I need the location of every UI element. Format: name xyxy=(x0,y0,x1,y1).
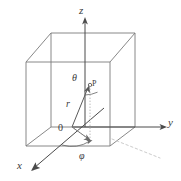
figure-canvas xyxy=(0,0,181,181)
phi-angle-label: φ xyxy=(79,151,85,161)
cube-edge-bottom-left xyxy=(26,127,51,146)
point-p-label: P xyxy=(92,80,96,88)
y-axis xyxy=(72,124,167,130)
theta-arc-path xyxy=(85,92,98,95)
radius-vector xyxy=(72,85,90,127)
z-axis xyxy=(82,17,88,127)
x-axis-label: x xyxy=(17,160,22,171)
theta-angle-arc xyxy=(85,92,98,95)
x-axis-line xyxy=(34,108,104,168)
projection-dotted-lines xyxy=(72,86,90,140)
cube-edge-top-right xyxy=(110,33,135,62)
ground-projection-ray xyxy=(72,127,91,141)
radius-label: r xyxy=(66,99,70,109)
guide-dashed-line xyxy=(112,139,160,158)
cube-edge-top-left xyxy=(26,33,51,62)
cube-depth-edges xyxy=(26,33,135,146)
x-axis xyxy=(31,108,104,171)
origin-label: 0 xyxy=(58,123,63,133)
theta-angle-label: θ xyxy=(72,73,77,83)
y-axis-label: y xyxy=(168,117,173,128)
spherical-coordinates-figure: z y x θ r P 0 φ xyxy=(0,0,181,181)
z-axis-label: z xyxy=(79,5,83,16)
